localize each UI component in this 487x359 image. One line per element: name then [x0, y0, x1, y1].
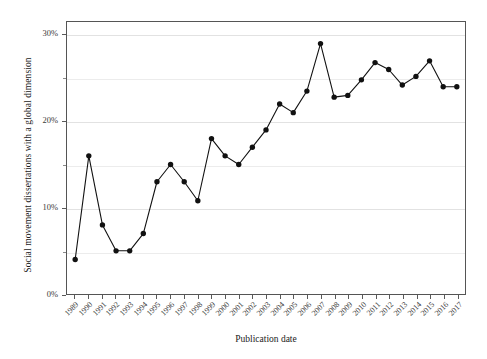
data-point-marker: 1992: 5% — [113, 248, 118, 253]
data-point-marker: 1998: 10.8% — [195, 198, 200, 203]
x-tick-mark — [389, 295, 390, 299]
x-tick-mark — [376, 295, 377, 299]
x-tick-mark — [458, 295, 459, 299]
x-tick-mark — [198, 295, 199, 299]
x-tick-mark — [143, 295, 144, 299]
x-tick-mark — [307, 295, 308, 299]
data-point-marker: 1997: 13% — [182, 179, 187, 184]
data-point-marker: 1994: 7% — [141, 231, 146, 236]
x-tick-mark — [211, 295, 212, 299]
plot-area: 1989: 4%1990: 16%1991: 8%1992: 5%1993: 5… — [66, 21, 466, 295]
y-tick-label: 0% — [24, 290, 58, 299]
x-tick-mark — [129, 295, 130, 299]
data-point-marker: 2009: 23% — [345, 93, 350, 98]
data-point-marker: 2013: 24.2% — [400, 82, 405, 87]
data-point-marker: 1991: 8% — [100, 222, 105, 227]
data-point-marker: 2002: 17% — [250, 145, 255, 150]
x-tick-mark — [252, 295, 253, 299]
x-tick-mark — [444, 295, 445, 299]
y-tick-label: 30% — [24, 29, 58, 38]
x-tick-mark — [430, 295, 431, 299]
y-axis-title: Social movement dissertations with a glo… — [23, 15, 39, 315]
y-tick-label: 10% — [24, 203, 58, 212]
x-tick-mark — [74, 295, 75, 299]
x-tick-mark — [403, 295, 404, 299]
data-point-marker: 2000: 16% — [222, 153, 227, 158]
x-tick-mark — [102, 295, 103, 299]
x-tick-mark — [348, 295, 349, 299]
y-tick-label: 20% — [24, 116, 58, 125]
data-series-line: 1989: 4%1990: 16%1991: 8%1992: 5%1993: 5… — [67, 22, 465, 294]
data-point-marker: 2016: 24% — [441, 84, 446, 89]
data-point-marker: 2014: 25.2% — [413, 74, 418, 79]
data-point-marker: 2008: 22.8% — [331, 94, 336, 99]
data-point-marker: 1989: 4% — [72, 257, 77, 262]
series-line — [75, 44, 457, 260]
data-point-marker: 2004: 22% — [277, 101, 282, 106]
x-tick-mark — [88, 295, 89, 299]
x-axis-title: Publication date — [66, 334, 466, 344]
data-point-marker: 2006: 23.5% — [304, 88, 309, 93]
x-tick-mark — [417, 295, 418, 299]
x-tick-mark — [293, 295, 294, 299]
x-tick-mark — [225, 295, 226, 299]
x-tick-mark — [266, 295, 267, 299]
data-point-marker: 2015: 27% — [427, 58, 432, 63]
x-tick-mark — [184, 295, 185, 299]
x-tick-mark — [280, 295, 281, 299]
data-point-marker: 2005: 21% — [291, 110, 296, 115]
data-point-marker: 2003: 19% — [263, 127, 268, 132]
y-tick-mark — [62, 295, 66, 296]
chart-figure: Social movement dissertations with a glo… — [0, 0, 487, 359]
data-point-marker: 2017: 24% — [454, 84, 459, 89]
data-point-marker: 2012: 26% — [386, 67, 391, 72]
data-point-marker: 2007: 29% — [318, 41, 323, 46]
x-tick-mark — [239, 295, 240, 299]
data-point-marker: 1993: 5% — [127, 248, 132, 253]
data-point-marker: 1990: 16% — [86, 153, 91, 158]
data-point-marker: 2001: 15% — [236, 162, 241, 167]
x-tick-mark — [335, 295, 336, 299]
data-point-marker: 1999: 18% — [209, 136, 214, 141]
x-tick-mark — [115, 295, 116, 299]
data-point-marker: 2011: 26.8% — [372, 60, 377, 65]
x-tick-label: 2017 — [446, 300, 464, 318]
data-point-marker: 1996: 15% — [168, 162, 173, 167]
x-tick-mark — [170, 295, 171, 299]
x-tick-mark — [156, 295, 157, 299]
data-point-marker: 1995: 13% — [154, 179, 159, 184]
x-tick-mark — [362, 295, 363, 299]
x-tick-mark — [321, 295, 322, 299]
data-point-marker: 2010: 24.8% — [359, 77, 364, 82]
